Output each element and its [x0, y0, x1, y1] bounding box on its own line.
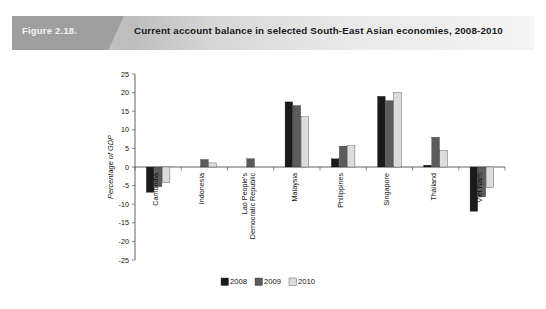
bar [440, 150, 448, 167]
bar [162, 167, 170, 183]
legend-swatch [221, 278, 229, 286]
bar [301, 117, 309, 167]
legend-swatch [255, 278, 263, 286]
y-tick-label: 10 [121, 125, 129, 134]
category-label: Thailand [429, 173, 438, 201]
bar [432, 137, 440, 167]
bar-chart: 2520151050-5-10-15-20-25 Percentage of G… [0, 52, 546, 309]
y-axis-tick-labels: 2520151050-5-10-15-20-25 [119, 70, 129, 265]
bar [394, 93, 402, 167]
chart-axes [132, 74, 505, 260]
y-tick-label: -25 [119, 256, 129, 265]
category-label: Singapore [382, 173, 391, 206]
figure-banner: Figure 2.18. Current account balance in … [12, 16, 534, 50]
y-axis-title-text: Percentage of GDP [106, 135, 115, 199]
y-tick-label: 20 [121, 88, 129, 97]
chart-legend: 200820092010 [221, 277, 315, 286]
legend-label: 2010 [298, 277, 315, 286]
y-tick-label: 25 [121, 70, 129, 79]
legend-label: 2009 [264, 277, 281, 286]
y-tick-label: -10 [119, 200, 129, 209]
y-tick-label: 5 [125, 144, 129, 153]
y-tick-label: -20 [119, 237, 129, 246]
chart-container: 2520151050-5-10-15-20-25 Percentage of G… [0, 52, 546, 309]
bar [285, 102, 293, 167]
category-label: Philippines [336, 173, 345, 208]
y-tick-label: -15 [119, 218, 129, 227]
category-label: Democratic Republic [248, 173, 257, 240]
bar [247, 159, 255, 167]
y-tick-label: 0 [125, 163, 129, 172]
bar [293, 106, 301, 167]
figure-title: Current account balance in selected Sout… [134, 25, 503, 36]
category-label: Malaysia [290, 173, 299, 201]
figure-number: Figure 2.18. [22, 25, 77, 36]
y-tick-label: -5 [123, 181, 129, 190]
bar [201, 160, 209, 167]
y-axis-title: Percentage of GDP [106, 135, 115, 199]
bar [486, 167, 494, 187]
bar [331, 159, 339, 167]
bar [347, 146, 355, 167]
legend-label: 2008 [230, 277, 247, 286]
legend-swatch [289, 278, 297, 286]
category-axis-labels: CambodiaIndonesiaLao People'sDemocratic … [151, 173, 484, 240]
y-tick-label: 15 [121, 107, 129, 116]
bar [209, 163, 217, 167]
bar [424, 165, 432, 167]
bar [386, 101, 394, 167]
category-label: Indonesia [197, 173, 206, 204]
bar [378, 96, 386, 167]
category-label: Viet Nam [475, 173, 484, 202]
bar [339, 146, 347, 167]
category-label: Cambodia [151, 173, 160, 206]
